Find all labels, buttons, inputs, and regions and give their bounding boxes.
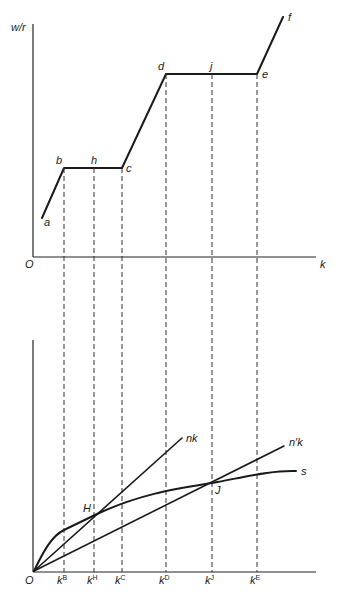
- top-y-axis-label: w/r: [11, 21, 27, 33]
- n-prime-k-line: [34, 446, 284, 571]
- nk-label: nk: [186, 432, 198, 444]
- intersection-label-H: H: [83, 502, 91, 514]
- economics-diagram: w/r O k a b h c d j e f O: [0, 0, 346, 606]
- point-label-f: f: [288, 11, 292, 23]
- tick-label-kH: kH: [87, 574, 98, 586]
- tick-label-kC: kC: [115, 574, 126, 586]
- top-origin-label: O: [25, 258, 34, 270]
- point-label-a: a: [44, 216, 50, 228]
- tick-label-kJ: kJ: [205, 574, 214, 586]
- tick-label-kD: kD: [159, 574, 170, 586]
- bottom-panel: O nk n′k s H J kB kH kC kD kJ kE: [25, 340, 316, 586]
- bottom-origin-label: O: [25, 574, 34, 586]
- dashed-connectors: [64, 74, 257, 572]
- point-label-c: c: [126, 162, 132, 174]
- nk-line: [34, 438, 182, 571]
- intersection-label-J: J: [214, 484, 221, 496]
- point-label-h: h: [91, 154, 97, 166]
- top-x-axis-label: k: [320, 258, 326, 270]
- s-label: s: [301, 465, 307, 477]
- point-label-b: b: [56, 154, 62, 166]
- point-label-j: j: [208, 60, 213, 72]
- wage-rental-schedule: [42, 17, 283, 218]
- point-label-e: e: [262, 68, 268, 80]
- n-prime-k-label: n′k: [289, 436, 303, 448]
- tick-label-kE: kE: [250, 574, 261, 586]
- tick-label-kB: kB: [57, 574, 68, 586]
- point-label-d: d: [158, 60, 165, 72]
- top-panel: w/r O k a b h c d j e f: [11, 11, 326, 270]
